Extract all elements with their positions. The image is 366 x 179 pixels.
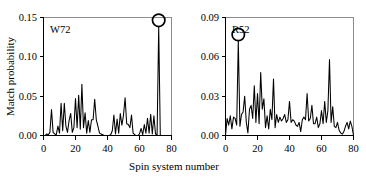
panel-label-w72: W72 [50, 24, 70, 35]
y-tick-label: 0.00 [19, 130, 37, 141]
y-ticks-w72 [40, 18, 44, 136]
x-tick-label: 0 [41, 143, 46, 154]
x-tick-label: 20 [252, 143, 263, 154]
x-tick-label: 60 [134, 143, 145, 154]
y-tick-label: 0.10 [19, 51, 37, 62]
y-tick-label: 0.06 [201, 51, 219, 62]
x-tick-label: 60 [316, 143, 327, 154]
highlighted-peak-marker-w72 [153, 14, 165, 26]
y-tick-label: 0.09 [201, 12, 219, 23]
plot-frame-w72 [44, 18, 172, 136]
data-trace-r52 [226, 41, 354, 135]
x-tick-label: 40 [102, 143, 113, 154]
y-ticks-r52 [222, 18, 226, 136]
data-trace-w72 [44, 27, 172, 136]
y-tick-label: 0.05 [19, 91, 37, 102]
x-tick-label: 20 [70, 143, 81, 154]
axes-w72 [44, 18, 172, 136]
figure-root: 0.00 0.05 0.10 0.15 0 20 40 60 80 W72 Ma… [0, 0, 366, 179]
plot-svg-w72: 0.00 0.05 0.10 0.15 0 20 40 60 80 W72 Ma… [0, 0, 183, 179]
x-ticks-r52 [226, 136, 354, 140]
x-tick-label: 80 [348, 143, 359, 154]
x-tick-label: 80 [166, 143, 177, 154]
x-tick-label: 40 [284, 143, 295, 154]
y-tick-label: 0.15 [19, 12, 37, 23]
x-ticks-w72 [44, 136, 172, 140]
chart-panel-r52: 0.00 0.03 0.06 0.09 0 20 40 60 80 R52 [183, 0, 366, 179]
chart-panel-w72: 0.00 0.05 0.10 0.15 0 20 40 60 80 W72 Ma… [0, 0, 183, 179]
x-tick-label: 0 [223, 143, 228, 154]
plot-svg-r52: 0.00 0.03 0.06 0.09 0 20 40 60 80 R52 [183, 0, 366, 179]
y-tick-label: 0.03 [201, 91, 219, 102]
y-axis-title: Match probability [4, 36, 16, 116]
y-tick-label: 0.00 [201, 130, 219, 141]
